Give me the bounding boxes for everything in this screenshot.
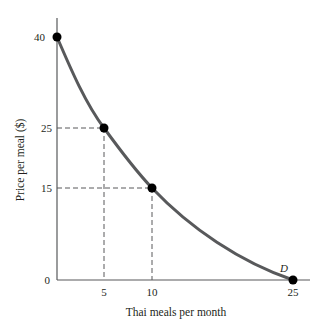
demand-curve-chart: 40 25 15 0 5 10 25 D Thai meals per mont… xyxy=(0,0,328,324)
y-tick-40: 40 xyxy=(34,31,46,43)
x-tick-10: 10 xyxy=(147,286,159,298)
x-tick-25: 25 xyxy=(288,286,300,298)
point-25-0 xyxy=(289,276,298,285)
x-tick-5: 5 xyxy=(101,286,107,298)
y-tick-15: 15 xyxy=(41,182,53,194)
point-0-40 xyxy=(53,33,62,42)
reference-lines xyxy=(57,128,152,280)
y-tick-0: 0 xyxy=(45,274,51,286)
y-tick-25: 25 xyxy=(41,122,53,134)
y-axis-label: Price per meal ($) xyxy=(14,118,27,201)
point-5-25 xyxy=(100,124,109,133)
curve-label-d: D xyxy=(279,262,288,274)
demand-curve xyxy=(57,37,293,280)
data-points xyxy=(53,33,298,285)
point-10-15 xyxy=(148,184,157,193)
x-axis-label: Thai meals per month xyxy=(126,306,227,319)
